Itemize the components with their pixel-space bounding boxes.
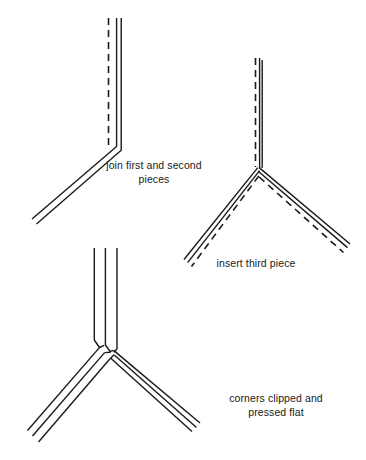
diagram-canvas [0,0,366,460]
step2-right-arm-dashed-fold-line [259,177,343,253]
step3-right-arm-centre-line [115,355,197,427]
step3-left-clipped-corner [94,340,104,348]
step2-right-arm-outer-edge [259,168,350,244]
step3-right-arm-lower-edge [111,358,192,431]
step3-right-arm-upper-edge [114,350,200,423]
step1-outer-edge [32,18,117,219]
step2-left-arm-dashed-fold-line [192,176,259,267]
step-3-corners-clipped-drawing [28,248,201,442]
step2-right-arm-inner-edge [258,171,347,247]
step3-lower-mitre [110,355,114,359]
step3-left-arm-upper-edge [28,347,100,430]
step-3-caption: corners clipped and pressed flat [196,392,356,419]
step3-left-arm-lower-edge [39,359,111,442]
assembly-diagram-figure: join first and second pieces insert thir… [0,0,366,460]
step-2-caption: insert third piece [188,257,324,271]
step3-centre-clipped-corner [105,345,113,352]
step3-left-arm-centre-line [33,353,105,436]
step-1-caption: join first and second pieces [86,159,222,186]
step-1-join-pieces-drawing [32,18,121,224]
